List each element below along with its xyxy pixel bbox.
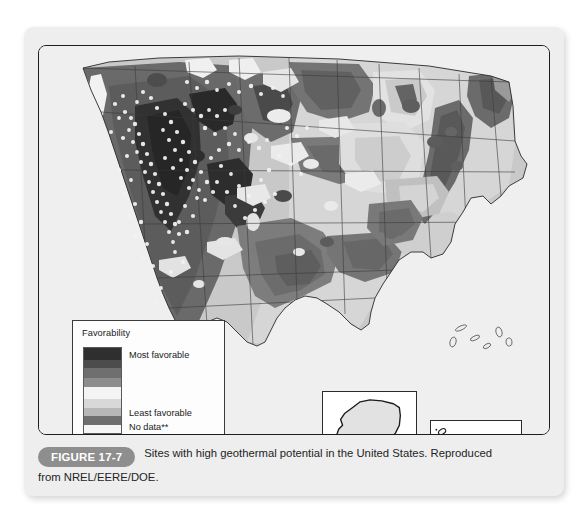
figure-caption-line-2: from NREL/EERE/DOE. xyxy=(38,469,554,486)
map-frame: Favorability Most favorable Le xyxy=(38,45,550,435)
legend-label-most-favorable: Most favorable xyxy=(129,350,189,360)
alaska-map xyxy=(323,392,416,435)
figure-page: Favorability Most favorable Le xyxy=(0,0,585,515)
legend-swatch-9 xyxy=(84,425,121,433)
legend-body: Most favorable Least favorable No data**… xyxy=(82,347,216,435)
legend-swatch-stack xyxy=(83,347,122,434)
legend-swatch-4 xyxy=(84,378,121,387)
legend-swatch-1 xyxy=(84,348,121,360)
hawaii-map xyxy=(431,421,521,435)
legend-swatch-5 xyxy=(84,387,121,399)
figure-caption-line-1: Sites with high geothermal potential in … xyxy=(144,447,492,459)
legend-swatch-8 xyxy=(84,416,121,425)
legend-swatch-7 xyxy=(84,408,121,416)
figure-card: Favorability Most favorable Le xyxy=(24,27,564,496)
legend-swatch-3 xyxy=(84,368,121,378)
map-legend: Favorability Most favorable Le xyxy=(72,320,225,435)
legend-label-least-favorable: Least favorable xyxy=(129,408,192,418)
legend-title: Favorability xyxy=(82,328,216,338)
alaska-inset xyxy=(322,391,417,435)
figure-caption: FIGURE 17-7Sites with high geothermal po… xyxy=(38,445,554,486)
figure-number-badge: FIGURE 17-7 xyxy=(38,447,135,467)
hawaii-inset xyxy=(430,420,522,435)
legend-swatch-2 xyxy=(84,360,121,369)
legend-swatch-6 xyxy=(84,399,121,408)
legend-label-no-data: No data** xyxy=(129,422,168,432)
